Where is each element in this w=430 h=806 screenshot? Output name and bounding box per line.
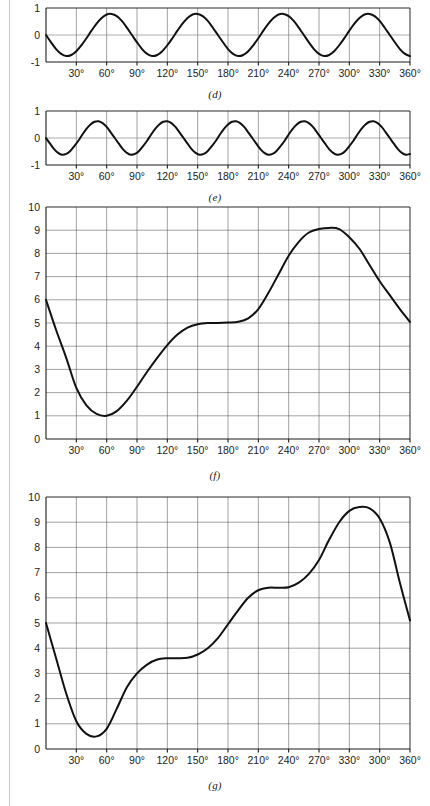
figure-page: 10-130°60°90°120°150°180°210°240°270°300… <box>0 0 430 806</box>
x-tick-label: 120° <box>156 67 178 79</box>
y-tick-label: 1 <box>34 2 40 14</box>
x-tick-label: 180° <box>217 754 239 766</box>
x-tick-label: 210° <box>247 170 269 182</box>
x-tick-label: 90° <box>129 67 145 79</box>
x-tick-label: 240° <box>278 170 300 182</box>
y-tick-label: 6 <box>34 591 40 603</box>
x-tick-label: 30° <box>68 754 84 766</box>
x-tick-label: 360° <box>399 444 421 456</box>
figure-f-caption: (f) <box>0 469 430 481</box>
y-tick-label: 1 <box>34 105 40 117</box>
y-tick-label: 3 <box>34 667 40 679</box>
x-tick-label: 90° <box>129 754 145 766</box>
x-tick-label: 30° <box>68 170 84 182</box>
figure-g: 10987654321030°60°90°120°150°180°210°240… <box>0 487 430 791</box>
x-tick-label: 120° <box>156 170 178 182</box>
figure-d: 10-130°60°90°120°150°180°210°240°270°300… <box>0 0 430 100</box>
x-tick-label: 60° <box>99 170 115 182</box>
x-tick-label: 210° <box>247 444 269 456</box>
x-tick-label: 330° <box>369 170 391 182</box>
y-tick-label: 2 <box>34 692 40 704</box>
plot-area: 10987654321030°60°90°120°150°180°210°240… <box>28 491 421 766</box>
x-tick-label: 240° <box>278 67 300 79</box>
x-tick-label: 330° <box>338 754 360 766</box>
x-tick-label: 120° <box>156 444 178 456</box>
x-tick-label: 270° <box>308 170 330 182</box>
x-tick-label: 150° <box>187 444 209 456</box>
y-tick-label: -1 <box>31 56 40 68</box>
chart-d: 10-130°60°90°120°150°180°210°240°270°300… <box>0 0 430 88</box>
x-tick-label: 270° <box>308 754 330 766</box>
x-tick-label: 30° <box>68 67 84 79</box>
x-tick-label: 360° <box>399 170 421 182</box>
y-tick-label: 9 <box>34 224 40 236</box>
x-tick-label: 150° <box>187 754 209 766</box>
x-tick-label: 180° <box>217 444 239 456</box>
x-tick-label: 330° <box>369 67 391 79</box>
y-tick-label: 0 <box>34 433 40 445</box>
y-tick-label: 9 <box>34 516 40 528</box>
x-tick-label: 90° <box>129 170 145 182</box>
y-tick-label: 8 <box>34 247 40 259</box>
figure-d-caption: (d) <box>0 88 430 100</box>
x-tick-label: 240° <box>278 444 300 456</box>
x-tick-label: 180° <box>217 67 239 79</box>
y-tick-label: 5 <box>34 317 40 329</box>
x-tick-label: 300° <box>338 444 360 456</box>
x-tick-label: 120° <box>156 754 178 766</box>
x-tick-label: 240° <box>278 754 300 766</box>
x-tick-label: 150° <box>187 67 209 79</box>
x-tick-label: 300° <box>338 170 360 182</box>
x-tick-label: 270° <box>308 444 330 456</box>
y-tick-label: 7 <box>34 566 40 578</box>
figure-e: 10-130°60°90°120°150°180°210°240°270°300… <box>0 103 430 203</box>
x-tick-label: 60° <box>99 444 115 456</box>
plot-area: 10-130°60°90°120°150°180°210°240°270°300… <box>31 105 421 182</box>
y-tick-label: -1 <box>31 159 40 171</box>
y-tick-label: 10 <box>28 491 40 503</box>
x-tick-label: 30° <box>68 444 84 456</box>
x-tick-label: 300° <box>338 67 360 79</box>
x-tick-label: 300° <box>369 754 391 766</box>
y-tick-label: 3 <box>34 363 40 375</box>
y-tick-label: 7 <box>34 270 40 282</box>
x-tick-label: 360° <box>399 67 421 79</box>
y-tick-label: 0 <box>34 29 40 41</box>
y-tick-label: 6 <box>34 293 40 305</box>
figure-g-caption: (g) <box>0 779 430 791</box>
y-tick-label: 0 <box>34 132 40 144</box>
y-tick-label: 5 <box>34 617 40 629</box>
y-tick-label: 1 <box>34 409 40 421</box>
plot-area: 10-130°60°90°120°150°180°210°240°270°300… <box>31 2 421 79</box>
y-tick-label: 1 <box>34 717 40 729</box>
chart-f: 10987654321030°60°90°120°150°180°210°240… <box>0 197 430 469</box>
x-tick-label: 180° <box>217 170 239 182</box>
x-tick-label: 330° <box>369 444 391 456</box>
x-tick-label: 60° <box>99 67 115 79</box>
y-tick-label: 4 <box>34 642 40 654</box>
figure-f: 10987654321030°60°90°120°150°180°210°240… <box>0 197 430 481</box>
x-tick-label: 360° <box>399 754 421 766</box>
x-tick-label: 150° <box>187 170 209 182</box>
chart-g: 10987654321030°60°90°120°150°180°210°240… <box>0 487 430 779</box>
y-tick-label: 2 <box>34 386 40 398</box>
y-tick-label: 8 <box>34 541 40 553</box>
y-tick-label: 0 <box>34 743 40 755</box>
plot-area: 10987654321030°60°90°120°150°180°210°240… <box>28 201 421 456</box>
x-tick-label: 270° <box>308 67 330 79</box>
x-tick-label: 60° <box>99 754 115 766</box>
x-tick-label: 210° <box>247 67 269 79</box>
chart-e: 10-130°60°90°120°150°180°210°240°270°300… <box>0 103 430 191</box>
y-tick-label: 10 <box>28 201 40 213</box>
x-tick-label: 90° <box>129 444 145 456</box>
x-tick-label: 210° <box>247 754 269 766</box>
y-tick-label: 4 <box>34 340 40 352</box>
